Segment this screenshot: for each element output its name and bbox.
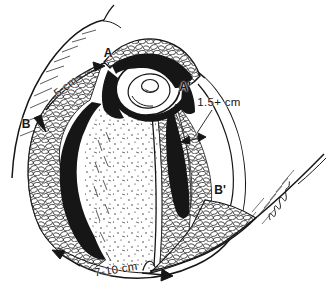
- label-point-a: A: [104, 47, 113, 59]
- marrow-canal: [142, 80, 159, 93]
- measurement-posterior-rim: 1.5+ cm: [197, 97, 240, 109]
- label-point-b: B: [22, 118, 31, 130]
- label-point-b-prime: B': [214, 184, 226, 196]
- figure-canvas: A A' B B' 5 cm 1.5+ cm 7-10 cm: [0, 0, 326, 290]
- stump-illustration: [0, 0, 326, 290]
- label-point-a-prime: A': [179, 81, 191, 93]
